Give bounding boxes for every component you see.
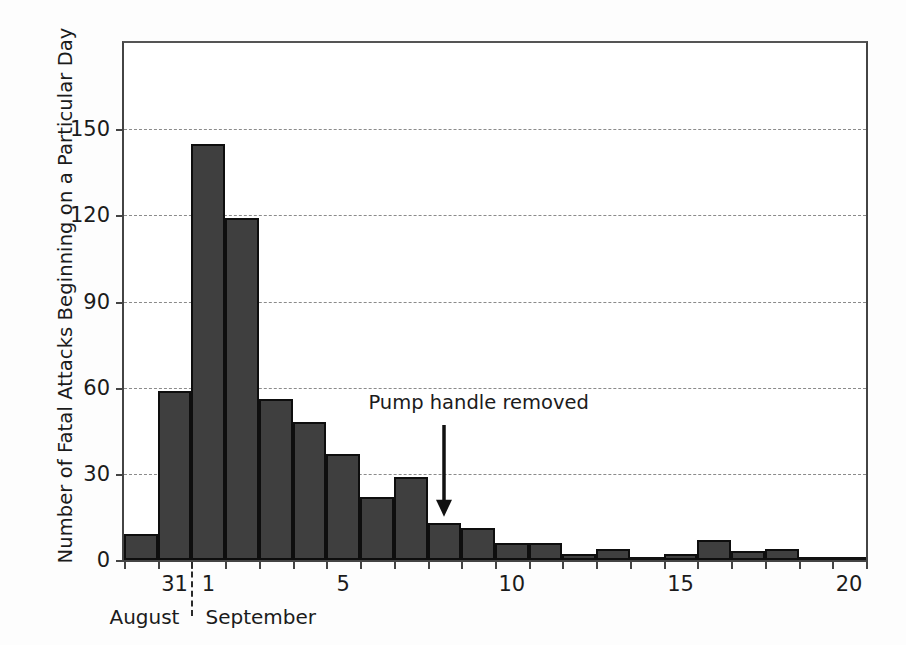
y-tick-mark-90 [116,302,124,304]
bar [495,543,529,560]
bar [394,477,428,560]
x-tick-mark [124,560,126,569]
y-tick-mark-60 [116,388,124,390]
bar [664,554,698,560]
bar [832,557,866,560]
x-tick-mark [225,560,227,569]
bar [326,454,360,560]
x-tick-mark [697,560,699,569]
x-tick-label-5: 5 [337,572,350,596]
x-tick-mark [158,560,160,569]
bar [697,540,731,560]
x-tick-mark [731,560,733,569]
month-divider-line [191,562,193,616]
bar [765,549,799,560]
y-tick-mark-120 [116,215,124,217]
x-tick-mark [562,560,564,569]
x-tick-mark [664,560,666,569]
x-tick-mark [630,560,632,569]
bar [529,543,563,560]
bar [630,557,664,560]
x-tick-label-20: 20 [836,572,863,596]
bar [225,218,259,560]
bar [259,399,293,560]
x-tick-mark [495,560,497,569]
y-tick-label-120: 120 [70,203,110,227]
month-label-august: August [109,605,179,629]
y-tick-label-30: 30 [83,462,110,486]
x-tick-mark [326,560,328,569]
gridline-y-120 [124,215,866,216]
x-tick-label-10: 10 [498,572,525,596]
y-tick-label-90: 90 [83,290,110,314]
y-tick-label-60: 60 [83,376,110,400]
plot-inner: 03060901201503115101520AugustSeptemberPu… [124,43,866,560]
x-tick-mark [866,560,868,569]
annotation-label: Pump handle removed [368,391,588,414]
x-tick-mark [428,560,430,569]
x-tick-mark [596,560,598,569]
x-tick-label-31: 31 [161,572,188,596]
bar [428,523,462,560]
month-label-september: September [205,605,316,629]
x-tick-label-1: 1 [202,572,215,596]
x-tick-label-15: 15 [667,572,694,596]
gridline-y-150 [124,129,866,130]
y-tick-label-0: 0 [97,548,110,572]
x-tick-mark [799,560,801,569]
bar [461,528,495,560]
plot-area: 03060901201503115101520AugustSeptemberPu… [122,41,868,562]
x-tick-mark [360,560,362,569]
x-tick-mark [293,560,295,569]
x-tick-mark [529,560,531,569]
y-tick-label-150: 150 [70,117,110,141]
x-tick-mark [259,560,261,569]
annotation-arrow-icon [433,425,455,517]
bar [596,549,630,560]
x-tick-mark [394,560,396,569]
y-tick-mark-30 [116,474,124,476]
x-tick-mark [461,560,463,569]
bar [731,551,765,560]
x-tick-mark [765,560,767,569]
bar [799,557,833,560]
y-tick-mark-0 [116,560,124,562]
bar [293,422,327,560]
bar [360,497,394,560]
bar [191,144,225,560]
chart-figure: Number of Fatal Attacks Beginning on a P… [0,0,906,645]
bar [124,534,158,560]
bar [158,391,192,560]
bar [562,554,596,560]
x-tick-mark [832,560,834,569]
y-tick-mark-150 [116,129,124,131]
